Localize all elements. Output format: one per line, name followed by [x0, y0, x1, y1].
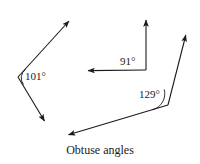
angle-101-lower-right-ray	[18, 77, 45, 121]
angle-91-label: 91°	[120, 56, 135, 67]
angle-129-label: 129°	[139, 89, 160, 100]
angle-101-upper-right-ray	[18, 21, 69, 77]
angle-129-upper-right-ray	[168, 35, 186, 105]
angle-91-leftward-ray	[88, 70, 146, 71]
obtuse-angles-figure: 101° 91° 129° Obtuse angles	[0, 0, 200, 164]
angle-91-shape	[88, 20, 146, 71]
angles-drawing	[0, 0, 200, 164]
angle-129-shape	[69, 35, 186, 135]
angle-101-label: 101°	[25, 71, 46, 82]
figure-caption: Obtuse angles	[0, 144, 200, 157]
